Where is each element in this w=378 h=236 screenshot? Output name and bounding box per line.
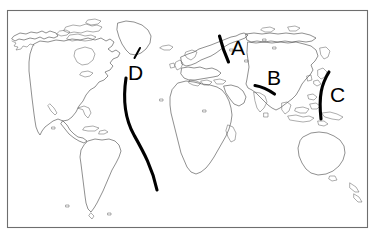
world-map-figure: A B C D bbox=[0, 0, 378, 236]
map-border bbox=[8, 11, 368, 228]
marker-c-label: C bbox=[330, 83, 345, 106]
map-svg: A B C D bbox=[0, 0, 378, 236]
marker-a-label: A bbox=[231, 36, 245, 59]
marker-b-label: B bbox=[267, 66, 281, 89]
marker-d-label: D bbox=[128, 61, 143, 84]
